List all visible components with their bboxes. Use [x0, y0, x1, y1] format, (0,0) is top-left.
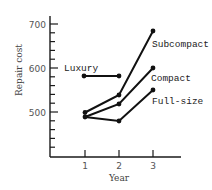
y-tick-label-500: 500 — [29, 108, 46, 118]
repair-cost-line-chart: 700 600 500 1 2 3 Year Repair cost Luxur… — [0, 0, 212, 190]
y-axis-title: Repair cost — [14, 44, 24, 96]
x-tick-label-2: 2 — [116, 161, 122, 171]
series-label-subcompact: Subcompact — [152, 39, 209, 50]
x-tick-label-1: 1 — [82, 161, 88, 171]
y-tick-label-600: 600 — [29, 64, 46, 74]
y-tick-label-700: 700 — [29, 20, 46, 30]
x-axis-title: Year — [108, 173, 130, 183]
x-axis-ticks — [85, 150, 153, 157]
y-axis-ticks — [50, 24, 58, 147]
series-label-luxury: Luxury — [64, 63, 99, 74]
x-tick-label-3: 3 — [150, 161, 156, 171]
series-label-compact: Compact — [151, 73, 191, 84]
series-label-fullsize: Full-size — [152, 96, 204, 107]
